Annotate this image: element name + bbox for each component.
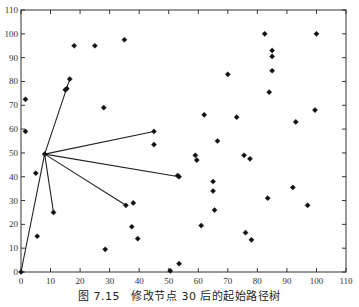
data-point-marker [194, 157, 199, 162]
data-point-marker [210, 188, 215, 193]
data-point-marker [270, 68, 275, 73]
x-tick-label: 70 [223, 276, 233, 286]
x-tick-label: 30 [105, 276, 115, 286]
y-tick-label: 90 [9, 53, 19, 63]
data-point-marker [290, 185, 295, 190]
data-point-marker [305, 203, 310, 208]
data-point-marker [199, 223, 204, 228]
data-point-marker [247, 156, 252, 161]
x-tick-label: 50 [164, 276, 174, 286]
data-point-marker [234, 115, 239, 120]
tree-edge [45, 154, 54, 212]
data-point-marker [123, 203, 128, 208]
y-axis: 0102030405060708090100110 [5, 5, 347, 277]
data-point-marker [51, 210, 56, 215]
x-tick-label: 20 [76, 276, 86, 286]
data-point-marker [193, 153, 198, 158]
y-tick-label: 70 [9, 100, 19, 110]
data-point-marker [210, 179, 215, 184]
data-point-marker [35, 234, 40, 239]
data-point-marker [92, 43, 97, 48]
x-tick-label: 60 [194, 276, 204, 286]
plot-border [21, 10, 346, 272]
tree-edge [45, 131, 154, 154]
path-tree-edges [21, 79, 179, 272]
data-point-marker [314, 31, 319, 36]
x-tick-label: 80 [253, 276, 263, 286]
data-point-marker [225, 72, 230, 77]
data-point-marker [270, 54, 275, 59]
x-tick-label: 100 [310, 276, 324, 286]
data-point-marker [33, 171, 38, 176]
data-point-marker [72, 43, 77, 48]
data-point-marker [129, 224, 134, 229]
x-tick-label: 110 [339, 276, 353, 286]
y-tick-label: 60 [9, 124, 19, 134]
y-tick-label: 0 [14, 267, 19, 277]
x-axis: 0102030405060708090100110 [19, 10, 353, 286]
data-point-marker [212, 207, 217, 212]
data-point-marker [18, 269, 23, 274]
data-point-marker [101, 105, 106, 110]
data-point-marker [312, 107, 317, 112]
data-point-marker [42, 152, 47, 157]
y-tick-label: 40 [9, 172, 19, 182]
data-point-marker [249, 237, 254, 242]
y-tick-label: 10 [9, 243, 19, 253]
data-point-marker [270, 48, 275, 53]
data-point-marker [265, 196, 270, 201]
tree-edge [45, 154, 179, 177]
data-point-marker [176, 261, 181, 266]
y-tick-label: 100 [5, 29, 19, 39]
x-tick-label: 90 [282, 276, 292, 286]
scatter-chart: 0102030405060708090100110 01020304050607… [0, 0, 359, 290]
x-tick-label: 0 [19, 276, 24, 286]
data-point-marker [23, 97, 28, 102]
data-point-marker [23, 129, 28, 134]
data-point-marker [103, 247, 108, 252]
data-point-marker [151, 129, 156, 134]
data-point-marker [215, 138, 220, 143]
y-tick-label: 20 [9, 219, 19, 229]
x-tick-label: 10 [46, 276, 56, 286]
data-point-marker [135, 236, 140, 241]
data-point-marker [122, 37, 127, 42]
plot-frame [21, 10, 346, 272]
data-point-marker [202, 112, 207, 117]
y-tick-label: 30 [9, 196, 19, 206]
data-point-marker [151, 142, 156, 147]
data-point-marker [267, 90, 272, 95]
x-tick-label: 40 [135, 276, 145, 286]
data-point-marker [241, 153, 246, 158]
y-tick-label: 50 [9, 148, 19, 158]
data-point-marker [293, 119, 298, 124]
tree-edge [45, 154, 126, 205]
data-points [18, 31, 319, 274]
data-point-marker [262, 31, 267, 36]
data-point-marker [131, 200, 136, 205]
data-point-marker [243, 230, 248, 235]
data-point-marker [67, 76, 72, 81]
tree-edge [21, 154, 45, 272]
y-tick-label: 110 [5, 5, 19, 15]
y-tick-label: 80 [9, 76, 19, 86]
figure-caption: 图 7.15 修改节点 30 后的起始路径树 [0, 287, 359, 303]
